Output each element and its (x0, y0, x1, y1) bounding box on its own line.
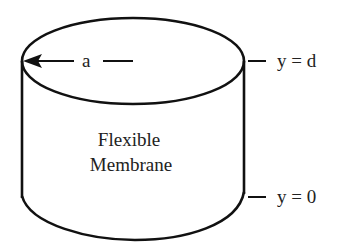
membrane-label-line2: Membrane (90, 154, 172, 175)
top-level-label: y = d (277, 50, 317, 71)
cylinder-diagram: a y = d y = 0 Flexible Membrane (0, 0, 348, 245)
bottom-curve (22, 192, 244, 240)
radius-label: a (82, 50, 91, 71)
bottom-level-label: y = 0 (277, 186, 316, 207)
membrane-label-line1: Flexible (98, 129, 160, 150)
